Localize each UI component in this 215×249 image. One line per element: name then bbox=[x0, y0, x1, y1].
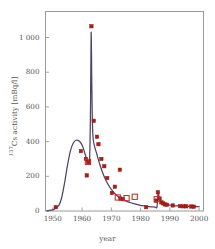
data-point-marker bbox=[144, 205, 147, 208]
x-tick-label: 2000 bbox=[188, 214, 210, 223]
x-tick-label: 1960 bbox=[71, 214, 93, 223]
data-point-marker bbox=[86, 160, 89, 163]
figure-container: 137Cs activity [mBq/l] year 195019601970… bbox=[0, 0, 215, 249]
data-point-marker bbox=[156, 191, 159, 194]
data-point-marker bbox=[54, 205, 57, 208]
data-point-marker bbox=[178, 204, 181, 207]
y-tick-label: 400 bbox=[0, 137, 40, 146]
x-axis-label: year bbox=[0, 234, 215, 243]
data-point-marker bbox=[106, 176, 109, 179]
data-point-marker bbox=[118, 168, 121, 171]
data-point-marker bbox=[85, 174, 88, 177]
x-tick-label: 1970 bbox=[100, 214, 122, 223]
data-point-marker bbox=[192, 205, 195, 208]
data-point-marker bbox=[171, 204, 174, 207]
y-tick-label: 800 bbox=[0, 67, 40, 76]
x-tick-label: 1990 bbox=[159, 214, 181, 223]
data-point-marker bbox=[113, 185, 116, 188]
data-point-marker bbox=[95, 135, 98, 138]
y-tick-label: 600 bbox=[0, 102, 40, 111]
x-tick-label: 1950 bbox=[42, 214, 64, 223]
data-point-marker bbox=[90, 25, 93, 28]
data-point-marker bbox=[103, 165, 106, 168]
data-point-marker bbox=[110, 191, 113, 194]
data-point-marker bbox=[97, 143, 100, 146]
data-point-marker bbox=[185, 205, 188, 208]
data-point-marker bbox=[100, 157, 103, 160]
y-tick-label: 0 bbox=[0, 206, 40, 215]
y-tick-label: 1 000 bbox=[0, 33, 40, 42]
y-tick-label: 200 bbox=[0, 171, 40, 180]
x-tick-label: 1980 bbox=[130, 214, 152, 223]
data-point-marker bbox=[79, 149, 82, 152]
data-point-marker bbox=[92, 119, 95, 122]
data-point-marker bbox=[165, 203, 168, 206]
